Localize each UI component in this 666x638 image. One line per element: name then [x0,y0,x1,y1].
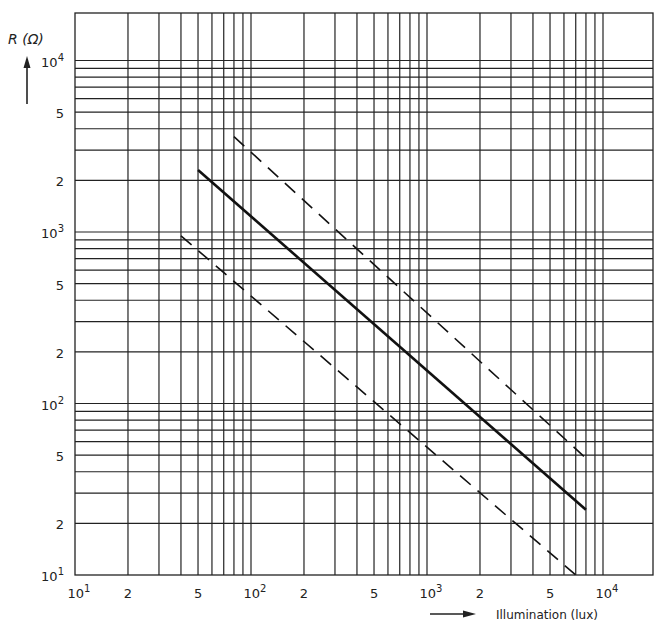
x-tick-label: 5 [370,586,378,601]
series-minimum [181,236,576,575]
resistance-vs-illumination-chart: 101251022510325104104521035210252101 R (… [0,0,666,638]
x-tick-label: 102 [244,583,267,601]
x-axis-arrow-icon [430,611,476,618]
x-tick-label: 2 [476,586,484,601]
x-tick-label: 101 [68,583,91,601]
y-axis-label: R (Ω) [8,31,44,47]
y-tick-label: 5 [56,106,64,121]
y-tick-label: 104 [41,52,64,70]
plot-frame [75,13,653,575]
x-tick-label: 103 [420,583,443,601]
y-tick-label: 2 [56,174,64,189]
y-axis-arrow-icon [24,56,31,104]
series-typical [198,170,586,510]
y-tick-label: 102 [41,395,64,413]
x-tick-label: 2 [300,586,308,601]
x-tick-label: 5 [546,586,554,601]
y-tick-label: 5 [56,278,64,293]
y-tick-label: 103 [41,223,64,241]
x-tick-label: 2 [124,586,132,601]
x-tick-label: 5 [194,586,202,601]
y-tick-label: 5 [56,449,64,464]
y-tick-label: 101 [41,566,64,584]
x-axis-label: Illumination (lux) [496,608,598,622]
data-series [181,137,586,575]
grid [75,13,653,575]
y-tick-label: 2 [56,346,64,361]
y-tick-label: 2 [56,517,64,532]
x-tick-label: 104 [596,583,619,601]
